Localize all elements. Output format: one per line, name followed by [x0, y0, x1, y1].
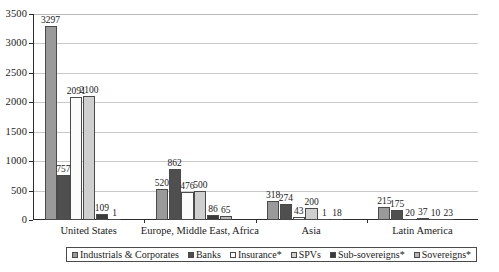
bar: [156, 189, 168, 220]
bar-slot: 500: [194, 14, 206, 220]
bar-slot: 10: [429, 14, 441, 220]
bar-slot: 757: [57, 14, 69, 220]
legend-label: Insurance*: [238, 249, 282, 260]
bar-value-label: 86: [208, 204, 218, 214]
bar: [318, 219, 330, 220]
bar: [442, 219, 454, 220]
bar: [293, 217, 305, 220]
legend-swatch-icon: [330, 252, 336, 258]
bar: [220, 216, 232, 220]
bar: [45, 26, 57, 220]
legend-item[interactable]: Industrials & Corporates: [72, 249, 179, 260]
y-tick-label: 0: [22, 215, 27, 225]
bar-value-label: 1: [112, 208, 117, 218]
bar-slot: 23: [442, 14, 454, 220]
legend-label: Sub-sovereigns*: [338, 249, 405, 260]
bar: [429, 219, 441, 220]
bar-slot: 215: [378, 14, 390, 220]
y-tick-label: 1000: [6, 156, 27, 166]
legend-swatch-icon: [188, 252, 194, 258]
legend-label: SPVs: [299, 249, 321, 260]
bar-value-label: 10: [431, 208, 441, 218]
legend-item[interactable]: SPVs: [291, 249, 321, 260]
bar-slot: 862: [169, 14, 181, 220]
bar-group: 31827443200118: [256, 14, 367, 220]
legend-item[interactable]: Banks: [188, 249, 221, 260]
bar: [169, 169, 181, 220]
chart-legend: Industrials & CorporatesBanksInsurance*S…: [66, 247, 477, 262]
category-label: Asia: [302, 224, 321, 237]
bar: [207, 215, 219, 220]
legend-swatch-icon: [230, 252, 236, 258]
bar: [280, 204, 292, 220]
bar-value-label: 18: [332, 208, 342, 218]
bar: [96, 214, 108, 220]
y-tick-label: 2500: [6, 68, 27, 78]
y-tick-label: 2000: [6, 97, 27, 107]
bar-groups: 3297757209121001091520862476500866531827…: [33, 14, 478, 220]
bar-group: 21517520371023: [367, 14, 478, 220]
legend-swatch-icon: [72, 252, 78, 258]
y-tick-label: 3000: [6, 38, 27, 48]
category-tick: [367, 220, 368, 223]
bar-slot: 520: [156, 14, 168, 220]
bar-slot: 3297: [45, 14, 57, 220]
legend-label: Industrials & Corporates: [80, 249, 179, 260]
y-tick-label: 3500: [6, 9, 27, 19]
bar-slot: 18: [331, 14, 343, 220]
bar: [194, 191, 206, 220]
legend-label: Banks: [196, 249, 221, 260]
y-tick-label: 1500: [6, 127, 27, 137]
bar-slot: 175: [391, 14, 403, 220]
legend-swatch-icon: [414, 252, 420, 258]
bar-value-label: 37: [418, 207, 428, 217]
bar-slot: 109: [96, 14, 108, 220]
bar: [404, 219, 416, 220]
legend-item[interactable]: Sovereigns*: [414, 249, 471, 260]
y-axis: 0500100015002000250030003500: [0, 0, 33, 272]
bar: [57, 175, 69, 220]
bar-slot: 43: [293, 14, 305, 220]
bar: [331, 219, 343, 220]
bar-value-label: 65: [221, 205, 231, 215]
legend-item[interactable]: Insurance*: [230, 249, 282, 260]
legend-label: Sovereigns*: [422, 249, 471, 260]
bar-slot: 2100: [83, 14, 95, 220]
bar-slot: 37: [417, 14, 429, 220]
bar-value-label: 43: [294, 206, 304, 216]
bar: [181, 192, 193, 220]
bar-value-label: 500: [193, 180, 207, 190]
bar: [267, 201, 279, 220]
bar: [417, 218, 429, 220]
bar-value-label: 757: [56, 164, 70, 174]
bar-slot: 318: [267, 14, 279, 220]
bar-value-label: 109: [95, 203, 109, 213]
y-tick-mark: [29, 220, 33, 221]
category-label: United States: [60, 224, 116, 237]
category-labels: United StatesEurope, Middle East, Africa…: [33, 224, 478, 240]
bar: [109, 219, 121, 220]
bar-slot: 200: [305, 14, 317, 220]
legend-swatch-icon: [291, 252, 297, 258]
bar: [391, 210, 403, 220]
bar-chart: 0500100015002000250030003500 32977572091…: [0, 0, 499, 272]
bar-group: 3297757209121001091: [33, 14, 144, 220]
category-label: Europe, Middle East, Africa: [141, 224, 259, 237]
bar-value-label: 1: [322, 208, 327, 218]
bar-slot: 2091: [70, 14, 82, 220]
bar-slot: 20: [404, 14, 416, 220]
bar-value-label: 20: [405, 208, 415, 218]
bar-value-label: 200: [304, 197, 318, 207]
bar-slot: 65: [220, 14, 232, 220]
bar-slot: 86: [207, 14, 219, 220]
bar: [305, 208, 317, 220]
legend-item[interactable]: Sub-sovereigns*: [330, 249, 405, 260]
bar-slot: 274: [280, 14, 292, 220]
bar-value-label: 23: [444, 208, 454, 218]
category-tick: [256, 220, 257, 223]
bar-slot: 476: [181, 14, 193, 220]
category-label: Latin America: [392, 224, 452, 237]
bar-value-label: 175: [390, 199, 404, 209]
bar-slot: 1: [318, 14, 330, 220]
bar-group: 5208624765008665: [144, 14, 255, 220]
